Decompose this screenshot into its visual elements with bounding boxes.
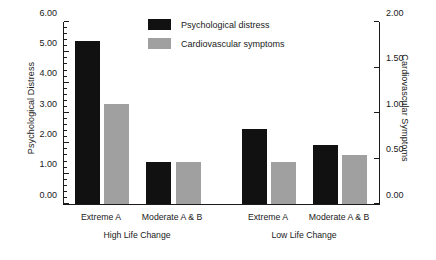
y-axis-right-tick	[374, 67, 379, 68]
bar	[342, 155, 367, 204]
y-axis-left-minor-tick	[64, 191, 67, 192]
y-axis-left-minor-tick	[64, 100, 67, 101]
bar	[313, 145, 338, 204]
y-axis-left-minor-tick	[64, 33, 67, 34]
y-axis-left-tick	[64, 173, 69, 174]
y-axis-left-tick-label: 6.00	[39, 8, 57, 18]
y-axis-left-minor-tick	[64, 27, 67, 28]
y-axis-left-tick	[64, 203, 69, 204]
y-axis-left-minor-tick	[64, 148, 67, 149]
y-axis-left-minor-tick	[64, 130, 67, 131]
y-axis-left-minor-tick	[64, 167, 67, 168]
y-axis-left-minor-tick	[64, 39, 67, 40]
y-axis-left-minor-tick	[64, 179, 67, 180]
y-axis-left-title: Psychological Distress	[26, 17, 36, 199]
y-axis-left-minor-tick	[64, 136, 67, 137]
y-axis-right-tick-label: 0.50	[386, 144, 404, 154]
y-axis-right-tick	[374, 21, 379, 22]
y-axis-left-tick	[64, 51, 69, 52]
x-axis-category-label: Moderate A & B	[142, 212, 202, 222]
bar	[104, 104, 129, 204]
bar	[176, 162, 201, 204]
x-axis-category-label: Extreme A	[248, 212, 288, 222]
y-axis-left-minor-tick	[64, 45, 67, 46]
y-axis-left-minor-tick	[64, 63, 67, 64]
plot-area: 0.001.002.003.004.005.006.00 0.000.501.0…	[63, 22, 380, 205]
bar	[75, 41, 100, 204]
y-axis-left-minor-tick	[64, 76, 67, 77]
y-axis-left-minor-tick	[64, 106, 67, 107]
y-axis-left-minor-tick	[64, 57, 67, 58]
y-axis-left-minor-tick	[64, 185, 67, 186]
y-axis-left-tick	[64, 82, 69, 83]
y-axis-left-tick	[64, 21, 69, 22]
y-axis-left-tick	[64, 112, 69, 113]
y-axis-left-tick-label: 0.00	[39, 190, 57, 200]
x-axis-category-label: Moderate A & B	[309, 212, 369, 222]
y-axis-left-tick-label: 1.00	[39, 159, 57, 169]
y-axis-right-tick-label: 2.00	[386, 8, 404, 18]
y-axis-left-tick-label: 3.00	[39, 99, 57, 109]
y-axis-left-minor-tick	[64, 88, 67, 89]
x-axis-category-label: Extreme A	[81, 212, 121, 222]
y-axis-left-minor-tick	[64, 161, 67, 162]
y-axis-left-minor-tick	[64, 70, 67, 71]
bar	[271, 162, 296, 204]
x-axis-group-label: Low Life Change	[271, 230, 336, 240]
bar	[146, 162, 171, 204]
y-axis-left-minor-tick	[64, 118, 67, 119]
y-axis-right-tick-label: 0.00	[386, 190, 404, 200]
x-axis-group-label: High Life Change	[103, 230, 170, 240]
y-axis-right-tick	[374, 158, 379, 159]
y-axis-left-tick-label: 5.00	[39, 38, 57, 48]
y-axis-left-tick-label: 2.00	[39, 129, 57, 139]
y-axis-left-tick-label: 4.00	[39, 68, 57, 78]
y-axis-left-minor-tick	[64, 94, 67, 95]
y-axis-left-tick	[64, 142, 69, 143]
chart-figure: Psychological Distress Cardiovascular Sy…	[0, 0, 436, 260]
y-axis-left-minor-tick	[64, 197, 67, 198]
y-axis-right-tick-label: 1.50	[386, 53, 404, 63]
y-axis-left-minor-tick	[64, 124, 67, 125]
bar	[242, 129, 267, 204]
y-axis-left-minor-tick	[64, 154, 67, 155]
y-axis-right-tick	[374, 203, 379, 204]
y-axis-right-tick	[374, 112, 379, 113]
y-axis-right-tick-label: 1.00	[386, 99, 404, 109]
